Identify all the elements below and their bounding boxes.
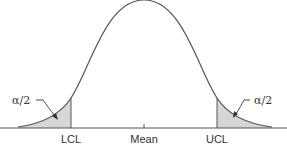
right-tail-pointer (236, 100, 250, 114)
mean-label: Mean (130, 133, 158, 145)
left-tail-label: α/2 (12, 94, 30, 107)
lcl-label: LCL (61, 133, 81, 145)
control-chart-diagram: α/2 α/2 LCL Mean UCL (0, 0, 287, 149)
left-tail-pointer (36, 100, 55, 116)
ucl-label: UCL (206, 133, 228, 145)
normal-curve (18, 0, 272, 127)
right-tail-label: α/2 (254, 94, 272, 107)
